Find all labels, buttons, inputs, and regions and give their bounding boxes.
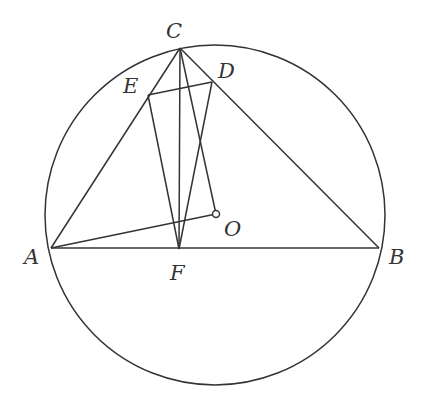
segment-co xyxy=(180,48,216,214)
label-o: O xyxy=(224,217,241,241)
label-a: A xyxy=(22,245,39,269)
segment-cf xyxy=(179,48,180,249)
center-point-o xyxy=(213,211,220,218)
segment-cb xyxy=(180,48,379,248)
segment-ef xyxy=(148,95,179,249)
label-c: C xyxy=(166,19,182,43)
label-f: F xyxy=(169,261,186,285)
geometry-diagram: A B C D E F O xyxy=(0,0,421,398)
label-d: D xyxy=(217,59,235,83)
label-b: B xyxy=(388,245,404,269)
segment-df xyxy=(179,82,212,249)
label-e: E xyxy=(122,74,138,98)
segment-ao xyxy=(51,214,216,248)
